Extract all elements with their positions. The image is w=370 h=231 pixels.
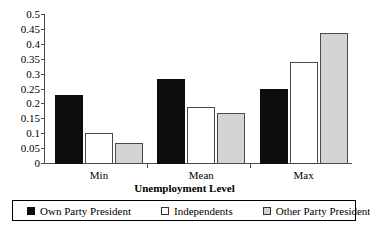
y-axis-tick-mark xyxy=(41,29,45,30)
legend-item-label: Own Party President xyxy=(40,205,131,217)
y-axis-tick-labels: 00.050.10.150.20.250.30.350.40.450.5 xyxy=(0,9,40,164)
y-axis-tick-mark xyxy=(41,118,45,119)
y-axis-tick-mark xyxy=(41,103,45,104)
y-axis-tick-label: 0.3 xyxy=(26,68,40,79)
y-axis-tick-label: 0.15 xyxy=(21,113,40,124)
y-axis-tick-mark xyxy=(41,89,45,90)
bar-mean-series0 xyxy=(157,79,185,164)
y-axis-tick-mark xyxy=(41,74,45,75)
y-axis-tick-mark xyxy=(41,133,45,134)
y-axis-tick-label: 0.25 xyxy=(21,83,40,94)
y-axis-tick-label: 0.4 xyxy=(26,38,40,49)
bar-min-series0 xyxy=(55,95,83,164)
y-axis-tick-mark xyxy=(41,148,45,149)
legend-item-label: Other Party President xyxy=(276,205,370,217)
legend-item-label: Independents xyxy=(174,205,233,217)
black-square-icon xyxy=(27,207,35,215)
y-axis-tick-label: 0.45 xyxy=(21,23,40,34)
plot-area: 00.050.10.150.20.250.30.350.40.450.5 Min… xyxy=(0,0,369,196)
x-axis-category-label: Mean xyxy=(189,169,214,182)
y-axis-tick-label: 0.35 xyxy=(21,53,40,64)
legend-item: Independents xyxy=(161,205,233,217)
x-axis-category-label: Min xyxy=(90,169,108,182)
y-axis-tick-label: 0.05 xyxy=(21,143,40,154)
y-axis-tick-mark xyxy=(41,59,45,60)
bar-mean-series1 xyxy=(187,107,215,164)
bars-layer xyxy=(45,0,352,164)
bar-mean-series2 xyxy=(217,113,245,164)
x-axis-tick-mark xyxy=(250,164,251,168)
bar-max-series1 xyxy=(290,62,318,164)
y-axis-tick-label: 0.2 xyxy=(26,98,40,109)
x-axis-title: Unemployment Level xyxy=(0,182,369,194)
x-axis-tick-mark xyxy=(147,164,148,168)
bar-min-series1 xyxy=(85,133,113,164)
y-axis-tick-mark xyxy=(41,163,45,164)
y-axis-tick-mark xyxy=(41,44,45,45)
chart-legend: Own Party PresidentIndependentsOther Par… xyxy=(12,200,356,221)
legend-item: Other Party President xyxy=(263,205,370,217)
x-axis-category-label: Max xyxy=(294,169,314,182)
y-axis-tick-label: 0.5 xyxy=(26,9,40,20)
gray-square-icon xyxy=(263,207,271,215)
y-axis-tick-label: 0.1 xyxy=(26,128,40,139)
bar-max-series2 xyxy=(320,33,348,164)
bar-max-series0 xyxy=(260,89,288,164)
y-axis-tick-mark xyxy=(41,14,45,15)
y-axis-tick-label: 0 xyxy=(35,158,41,169)
bar-min-series2 xyxy=(115,143,143,164)
legend-item: Own Party President xyxy=(27,205,131,217)
white-square-icon xyxy=(161,207,169,215)
